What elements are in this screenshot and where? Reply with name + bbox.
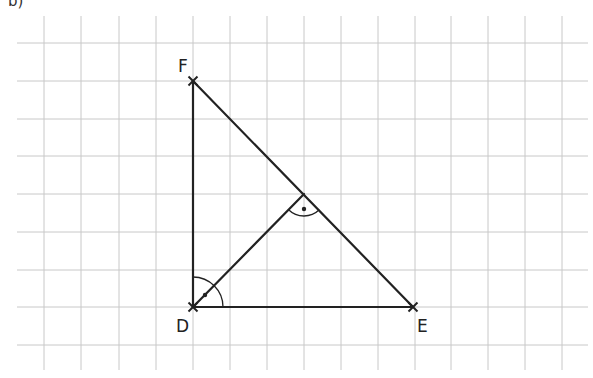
angle-dot-h [302,207,306,211]
point-label-d: D [176,318,189,335]
angle-dot-d [203,293,207,297]
point-label-f: F [178,58,188,75]
geometry-diagram [0,0,593,378]
altitude-dh [193,194,304,307]
point-label-e: E [417,318,428,335]
